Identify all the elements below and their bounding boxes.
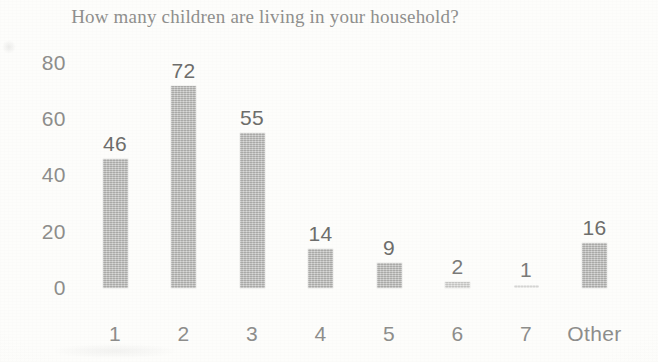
x-axis-label-5: 5 [383, 322, 395, 346]
scan-artifact-bottom [55, 344, 175, 358]
x-axis-label-2: 2 [177, 322, 189, 346]
bar-2 [171, 86, 196, 289]
bar-1 [103, 159, 128, 288]
bar-value-label-other: 16 [583, 216, 607, 240]
bar-value-label-5: 9 [383, 236, 395, 260]
x-axis-label-1: 1 [109, 322, 121, 346]
bar-4 [308, 249, 333, 288]
bar-value-label-6: 2 [452, 255, 464, 279]
chart-page: How many children are living in your hou… [0, 0, 658, 362]
x-axis-label-7: 7 [520, 322, 532, 346]
bar-6 [445, 282, 470, 288]
x-axis-label-other: Other [567, 322, 622, 346]
bar-value-label-3: 55 [240, 106, 264, 130]
bar-value-label-4: 14 [309, 222, 333, 246]
bar-value-label-1: 46 [103, 132, 127, 156]
x-axis-label-4: 4 [314, 322, 326, 346]
plot-area: 46172255314495261716Other [0, 0, 658, 362]
bar-3 [240, 133, 265, 288]
bar-5 [377, 263, 402, 288]
bar-other [582, 243, 607, 288]
x-axis-label-6: 6 [451, 322, 463, 346]
bar-7 [514, 285, 539, 288]
x-axis-label-3: 3 [246, 322, 258, 346]
bar-value-label-2: 72 [172, 59, 196, 83]
scan-artifact-left [2, 40, 16, 54]
bar-value-label-7: 1 [520, 258, 532, 282]
